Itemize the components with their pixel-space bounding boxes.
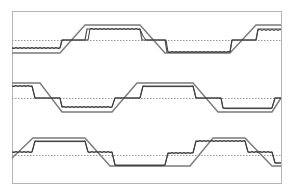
signal-trace [12, 85, 281, 108]
step-trace [12, 86, 281, 108]
signal-trace [12, 140, 281, 165]
band-3 [12, 138, 281, 166]
band-2 [12, 83, 281, 112]
waveform-plot [0, 0, 295, 193]
envelope-trace [12, 138, 281, 166]
envelope-trace [12, 25, 281, 53]
waveform-diagram [0, 0, 295, 193]
band-1 [12, 25, 281, 53]
step-trace [12, 141, 281, 165]
